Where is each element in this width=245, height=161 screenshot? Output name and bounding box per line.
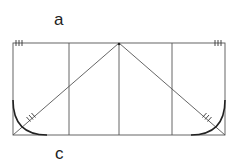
geometry-diagram: a c: [0, 0, 245, 161]
curve-right: [191, 100, 225, 135]
curve-left: [13, 100, 47, 135]
apex-point: [118, 43, 120, 45]
label-a: a: [54, 10, 64, 29]
tick-marks-diagonal-left: [27, 113, 36, 122]
diagonal-left: [13, 43, 119, 135]
label-c: c: [55, 144, 64, 161]
tick-marks-diagonal-right: [203, 113, 212, 122]
